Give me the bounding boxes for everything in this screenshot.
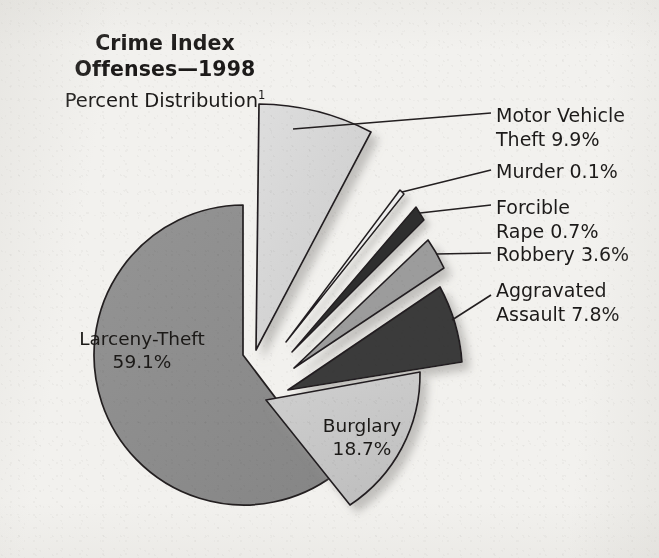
label-forcible-rape: Forcible Rape 0.7% [496, 196, 599, 243]
chart-title-line-2: Offenses—1998 [0, 56, 330, 82]
leader-line-aggravated-assault [452, 295, 491, 320]
chart-subtitle-text: Percent Distribution [65, 89, 258, 112]
chart-title-line-1: Crime Index [0, 30, 330, 56]
leader-line-forcible-rape [420, 205, 491, 213]
label-larceny-theft: Larceny-Theft 59.1% [52, 327, 232, 373]
label-murder: Murder 0.1% [496, 160, 618, 184]
label-motor-vehicle-theft: Motor Vehicle Theft 9.9% [496, 104, 625, 151]
chart-title-block: Crime Index Offenses—1998 Percent Distri… [0, 30, 330, 114]
label-robbery: Robbery 3.6% [496, 243, 629, 267]
label-aggravated-assault: Aggravated Assault 7.8% [496, 279, 620, 326]
chart-subtitle-footnote-marker: 1 [258, 88, 265, 102]
leader-line-murder [402, 170, 491, 192]
chart-subtitle: Percent Distribution1 [0, 82, 330, 114]
label-burglary: Burglary 18.7% [292, 414, 432, 460]
leader-line-robbery [436, 253, 491, 254]
